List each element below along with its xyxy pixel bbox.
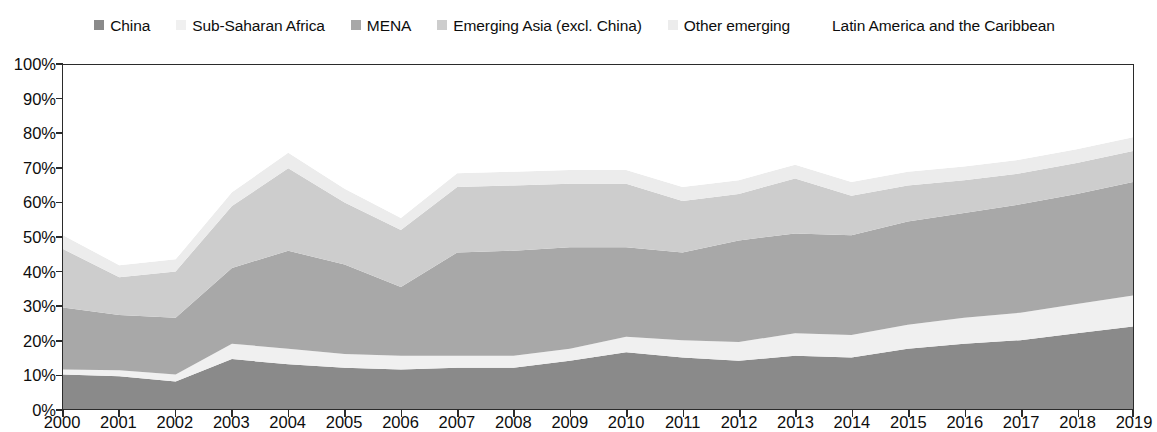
legend-swatch-icon	[668, 20, 678, 30]
y-tick-label: 30%	[0, 297, 56, 315]
y-tick-label: 10%	[0, 366, 56, 384]
legend-item-4[interactable]: Other emerging	[668, 17, 790, 34]
x-tick-label: 2019	[1099, 412, 1157, 432]
y-tick-label: 80%	[0, 124, 56, 142]
legend-swatch-icon	[351, 20, 361, 30]
legend-item-label: Sub-Saharan Africa	[192, 17, 325, 34]
legend-item-label: Other emerging	[684, 17, 790, 34]
legend-swatch-icon	[816, 20, 826, 30]
legend-swatch-icon	[176, 20, 186, 30]
legend-item-1[interactable]: Sub-Saharan Africa	[176, 17, 325, 34]
legend-item-3[interactable]: Emerging Asia (excl. China)	[437, 17, 642, 34]
legend-item-0[interactable]: China	[94, 17, 150, 34]
y-tick-label: 70%	[0, 159, 56, 177]
y-tick-label: 60%	[0, 193, 56, 211]
y-tick-label: 100%	[0, 55, 56, 73]
plot-area	[62, 64, 1134, 410]
x-axis-labels: 2000200120022003200420052006200720082009…	[0, 410, 1149, 432]
y-tick-label: 50%	[0, 228, 56, 246]
legend-item-label: Emerging Asia (excl. China)	[453, 17, 642, 34]
y-tick-label: 40%	[0, 263, 56, 281]
legend-item-5[interactable]: Latin America and the Caribbean	[816, 17, 1055, 34]
legend-item-label: Latin America and the Caribbean	[832, 17, 1055, 34]
y-axis-labels: 0%10%20%30%40%50%60%70%80%90%100%	[0, 64, 56, 410]
legend-item-label: China	[110, 17, 150, 34]
chart-legend: ChinaSub-Saharan AfricaMENAEmerging Asia…	[0, 12, 1149, 38]
plot-series-svg	[63, 65, 1133, 409]
y-tick-label: 90%	[0, 90, 56, 108]
legend-item-2[interactable]: MENA	[351, 17, 411, 34]
legend-swatch-icon	[437, 20, 447, 30]
legend-item-label: MENA	[367, 17, 411, 34]
legend-swatch-icon	[94, 20, 104, 30]
y-tick-label: 20%	[0, 332, 56, 350]
